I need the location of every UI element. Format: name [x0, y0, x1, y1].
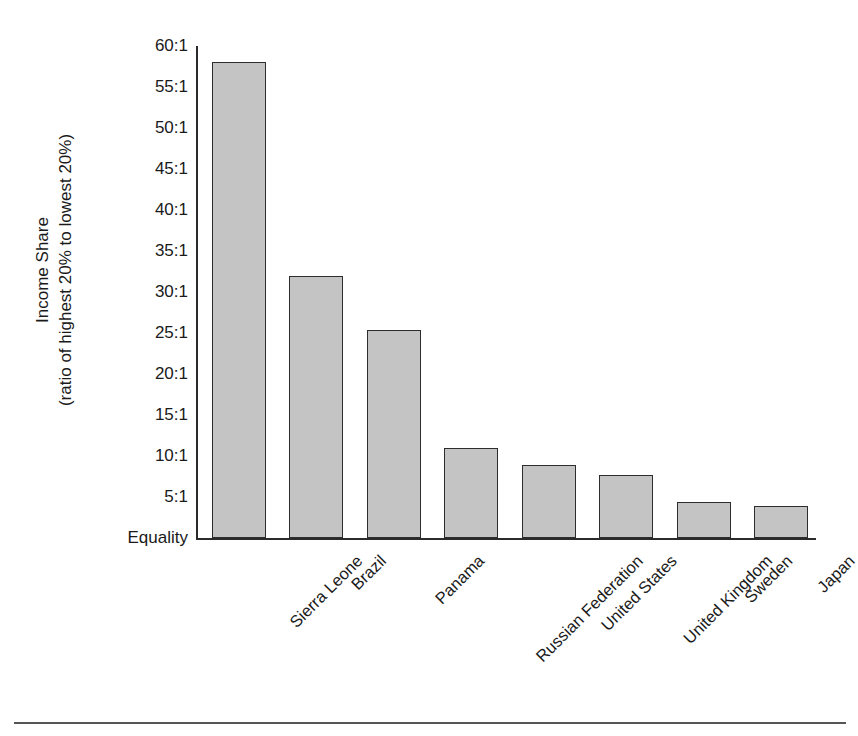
y-axis-tick-label: 50:1: [68, 119, 188, 136]
bar-japan: [754, 506, 808, 538]
y-axis-tick-label: 40:1: [68, 201, 188, 218]
y-axis-tick-label: 25:1: [68, 324, 188, 341]
y-axis-tick-label: 20:1: [68, 365, 188, 382]
chart-page: Income Share (ratio of highest 20% to lo…: [0, 0, 858, 736]
bar-united-kingdom: [599, 475, 653, 538]
y-axis-tick-label: 55:1: [68, 78, 188, 95]
x-axis-tick-label: Sierra Leone: [286, 552, 365, 631]
x-axis-tick-label: Japan: [814, 552, 858, 596]
y-axis-tick-labels: Equality5:110:115:120:125:130:135:140:14…: [60, 46, 188, 540]
y-axis-tick-label: 60:1: [68, 37, 188, 54]
x-axis-tick-label: Panama: [432, 552, 487, 607]
x-axis-tick-labels: Sierra LeoneBrazilPanamaRussian Federati…: [196, 540, 856, 690]
bar-brazil: [289, 276, 343, 538]
bar-panama: [367, 330, 421, 538]
bar-russian-federation: [444, 448, 498, 538]
y-axis-tick-label: 5:1: [68, 488, 188, 505]
y-axis-tick-label: 15:1: [68, 406, 188, 423]
bar-series: [196, 46, 816, 540]
bar-united-states: [522, 465, 576, 538]
y-axis-tick-label: 45:1: [68, 160, 188, 177]
y-axis-title-line-1: Income Share: [32, 217, 53, 323]
x-axis-tick-label: United Kingdom: [681, 552, 776, 647]
y-axis-tick-label: 35:1: [68, 242, 188, 259]
y-axis-tick-label: 30:1: [68, 283, 188, 300]
bottom-divider: [14, 722, 846, 724]
y-axis-tick-label: Equality: [68, 529, 188, 546]
bar-sierra-leone: [212, 62, 266, 538]
y-axis-tick-label: 10:1: [68, 447, 188, 464]
bar-sweden: [677, 502, 731, 538]
